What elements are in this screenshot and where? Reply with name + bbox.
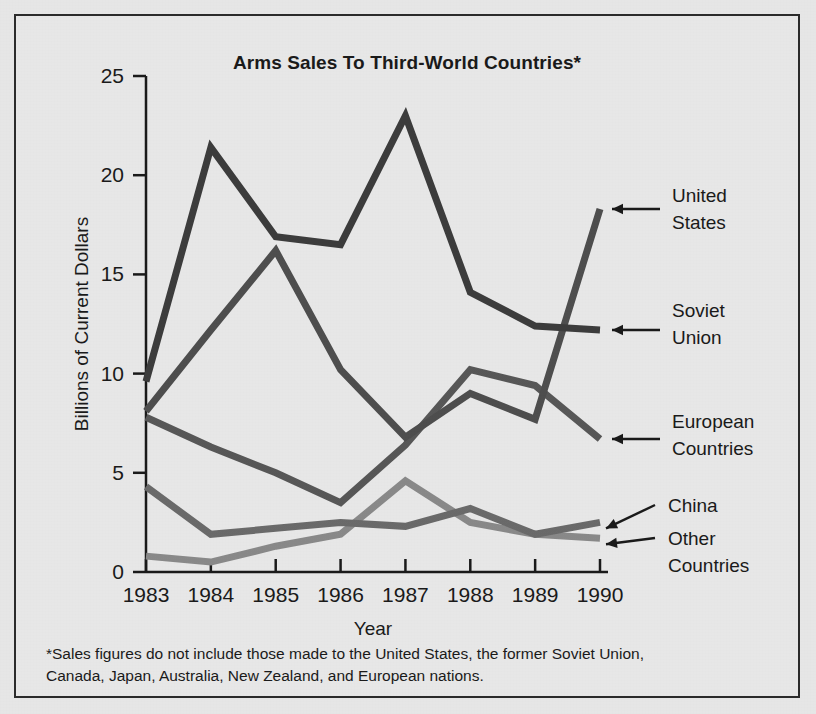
- series-annotations: UnitedStatesSovietUnionEuropeanCountries…: [606, 185, 754, 576]
- footnote-line-2: Canada, Japan, Australia, New Zealand, a…: [46, 665, 768, 687]
- y-axis-title: Billions of Current Dollars: [71, 217, 92, 431]
- footnote-line-1: *Sales figures do not include those made…: [46, 643, 768, 665]
- footnote: *Sales figures do not include those made…: [46, 643, 768, 687]
- annotation-label-soviet-union-line2: Union: [672, 327, 722, 348]
- annotation-label-united-states-line2: States: [672, 212, 726, 233]
- series-line-european-countries: [146, 370, 600, 503]
- y-axis: 0510152025: [101, 64, 146, 583]
- y-axis-tick-label: 10: [101, 362, 124, 385]
- annotation-label-china: China: [668, 495, 718, 516]
- chart-title: Arms Sales To Third-World Countries*: [16, 52, 798, 74]
- x-axis-tick-label: 1985: [252, 583, 299, 606]
- x-axis-title: Year: [354, 618, 393, 639]
- annotation-arrowhead: [612, 204, 623, 214]
- annotation-label-european-countries: European: [672, 411, 754, 432]
- x-axis-tick-label: 1986: [317, 583, 364, 606]
- annotation-label-other-countries-line2: Countries: [668, 555, 749, 576]
- x-axis: 19831984198519861987198819891990: [123, 559, 624, 606]
- line-chart-plot: 0510152025 19831984198519861987198819891…: [0, 0, 816, 714]
- annotation-arrowhead: [612, 434, 623, 444]
- y-axis-tick-label: 20: [101, 163, 124, 186]
- figure-canvas: Arms Sales To Third-World Countries* 051…: [0, 0, 816, 714]
- annotation-label-european-countries-line2: Countries: [672, 438, 753, 459]
- annotation-arrowhead: [612, 325, 623, 335]
- x-axis-tick-label: 1988: [447, 583, 494, 606]
- x-axis-tick-label: 1989: [512, 583, 559, 606]
- y-axis-tick-label: 5: [112, 461, 124, 484]
- y-axis-tick-label: 15: [101, 262, 124, 285]
- series-lines: [146, 116, 600, 562]
- annotation-label-soviet-union: Soviet: [672, 300, 726, 321]
- x-axis-tick-label: 1984: [187, 583, 234, 606]
- x-axis-tick-label: 1990: [577, 583, 624, 606]
- annotation-label-united-states: United: [672, 185, 727, 206]
- series-line-united-states: [146, 116, 600, 382]
- y-axis-tick-label: 0: [112, 560, 124, 583]
- x-axis-tick-label: 1987: [382, 583, 429, 606]
- annotation-label-other-countries: Other: [668, 528, 716, 549]
- x-axis-tick-label: 1983: [123, 583, 170, 606]
